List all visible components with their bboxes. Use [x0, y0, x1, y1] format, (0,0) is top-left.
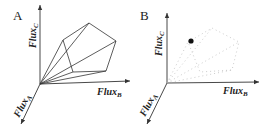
- panel-a: A FluxC FluxB FluxA: [11, 5, 130, 124]
- panel-b: B FluxC FluxB FluxA: [137, 8, 259, 124]
- flux-cone-polygon: [63, 23, 116, 72]
- panel-label-a: A: [13, 8, 23, 23]
- axis-label-flux-b: FluxB: [222, 85, 248, 98]
- axis-label-flux-c: FluxC: [153, 31, 166, 57]
- axis-label-flux-b: FluxB: [96, 86, 122, 99]
- axis-label-flux-a: FluxA: [11, 92, 35, 121]
- faint-cone-polygon: [188, 28, 239, 72]
- axis-flux-b: [167, 82, 259, 83]
- axis-label-flux-a: FluxA: [137, 91, 161, 120]
- faint-ray: [167, 28, 212, 83]
- faint-ray: [167, 70, 232, 83]
- figure: A FluxC FluxB FluxA B FluxC FluxB FluxA: [0, 0, 270, 131]
- axis-label-flux-c: FluxC: [27, 23, 40, 49]
- panel-label-b: B: [140, 8, 149, 23]
- solution-point: [188, 38, 193, 43]
- faint-ray: [167, 42, 239, 83]
